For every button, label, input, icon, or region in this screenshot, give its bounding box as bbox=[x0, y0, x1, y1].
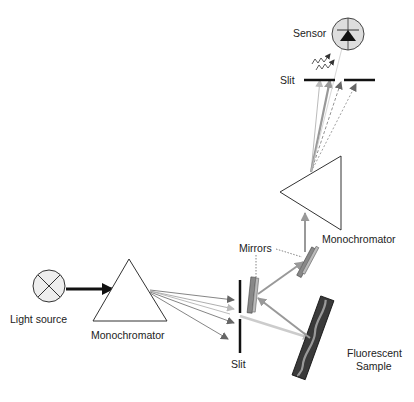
diagram-canvas: Light source Monochromator Slit Fluoresc… bbox=[0, 0, 414, 402]
sample-label-line2: Sample bbox=[356, 360, 392, 372]
fluorescent-sample bbox=[292, 296, 334, 380]
monochromator-2-label: Monochromator bbox=[322, 233, 396, 245]
sensor-label: Sensor bbox=[293, 27, 327, 39]
excitation-to-sample-beam bbox=[240, 316, 310, 338]
photon-squiggle-icon bbox=[312, 54, 334, 70]
mirrors-label: Mirrors bbox=[239, 242, 272, 254]
mirror-1 bbox=[247, 277, 259, 313]
light-source-icon bbox=[33, 270, 65, 302]
mirror-to-mirror-beam bbox=[258, 262, 303, 294]
monochromator-2-prism bbox=[280, 156, 341, 230]
slit-top-label: Slit bbox=[280, 74, 295, 86]
mirror-2 bbox=[297, 246, 319, 277]
slit-bottom-label: Slit bbox=[231, 358, 246, 370]
monochromator-1-label: Monochromator bbox=[91, 329, 165, 341]
sensor-icon bbox=[332, 18, 364, 50]
emission-dispersed-rays bbox=[311, 40, 356, 172]
sample-label-line1: Fluorescent bbox=[347, 347, 402, 359]
emission-to-mirror-beam bbox=[258, 298, 310, 338]
light-source-label: Light source bbox=[10, 313, 67, 325]
